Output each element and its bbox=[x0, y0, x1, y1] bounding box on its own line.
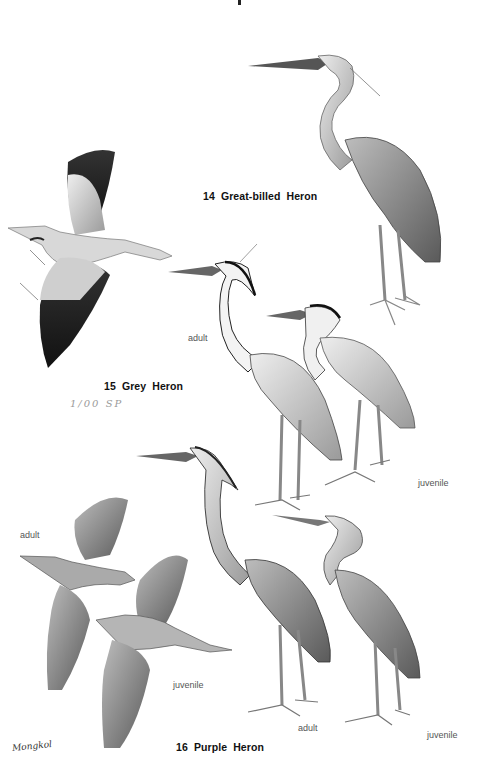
species-name: Grey Heron bbox=[122, 380, 183, 392]
species-name: Great-billed Heron bbox=[221, 190, 317, 202]
species-name: Purple Heron bbox=[194, 741, 264, 753]
species-number: 15 bbox=[104, 380, 116, 392]
label-purple-heron-adult: adult bbox=[298, 723, 318, 733]
label-grey-heron-juvenile: juvenile bbox=[418, 478, 449, 488]
illustration-plate: 14Great-billed Heron 15Grey Heron 1/00 S… bbox=[0, 0, 480, 778]
caption-purple-heron: 16Purple Heron bbox=[176, 741, 264, 753]
caption-grey-heron: 15Grey Heron bbox=[104, 380, 183, 392]
grey-heron-flight-figure bbox=[8, 150, 172, 368]
label-purple-heron-flight-adult: adult bbox=[20, 530, 40, 540]
caption-great-billed-heron: 14Great-billed Heron bbox=[203, 190, 317, 202]
label-purple-heron-juvenile: juvenile bbox=[427, 730, 458, 740]
handwritten-note: 1/00 SP bbox=[70, 398, 123, 409]
species-number: 14 bbox=[203, 190, 215, 202]
label-grey-heron-adult: adult bbox=[188, 333, 208, 343]
heron-illustrations bbox=[0, 0, 480, 778]
label-purple-heron-flight-juvenile: juvenile bbox=[173, 680, 204, 690]
species-number: 16 bbox=[176, 741, 188, 753]
